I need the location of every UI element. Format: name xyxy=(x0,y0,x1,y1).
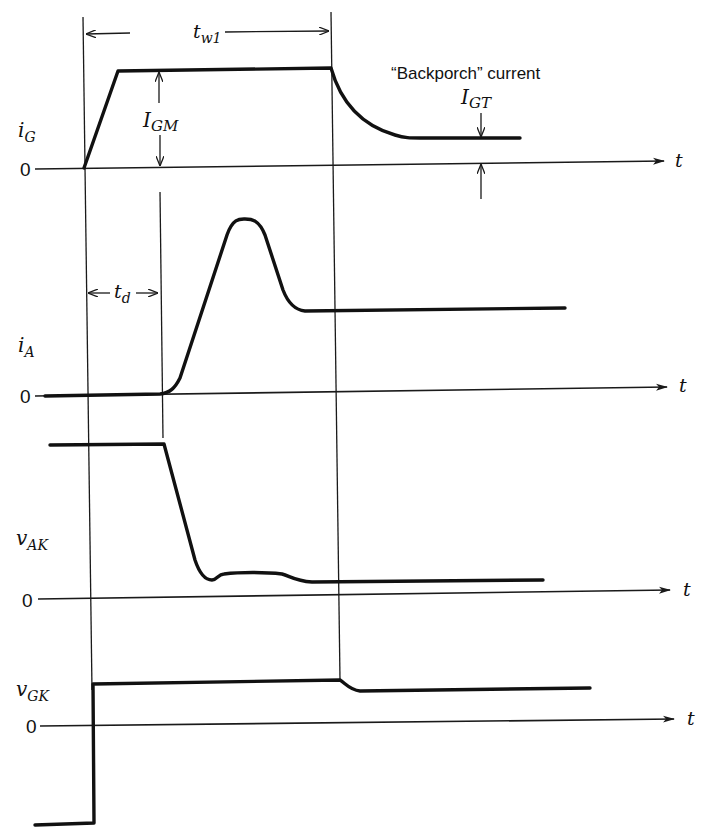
trace-vgk: 0 t vGK xyxy=(16,677,695,825)
trace-ig: 0 t iG tw1 IGM “Backporch” current IGT xyxy=(18,20,683,199)
vgk-zero-label: 0 xyxy=(26,716,37,737)
vak-waveform xyxy=(50,444,543,582)
ig-trace-label: iG xyxy=(18,118,36,145)
thyristor-timing-diagram: 0 t iG tw1 IGM “Backporch” current IGT 0… xyxy=(0,0,713,839)
td-label: td xyxy=(114,280,131,306)
backporch-current-label: “Backporch” current xyxy=(391,64,541,83)
trace-vak: 0 t vAK xyxy=(16,444,691,611)
tw1-dimension-left xyxy=(86,33,130,34)
ia-time-label: t xyxy=(679,374,687,396)
ig-time-axis xyxy=(35,161,664,169)
vak-time-axis xyxy=(38,590,670,599)
ia-zero-label: 0 xyxy=(20,386,31,407)
ia-trace-label: iA xyxy=(18,333,35,360)
vgk-time-axis xyxy=(40,719,674,726)
vak-zero-label: 0 xyxy=(22,590,33,611)
guide-line-pulse-end xyxy=(331,12,340,680)
tw1-label: tw1 xyxy=(193,20,222,46)
ia-waveform xyxy=(45,219,565,396)
vgk-trace-label: vGK xyxy=(16,677,50,704)
vak-time-label: t xyxy=(683,578,691,600)
tw1-dimension-right xyxy=(225,31,329,32)
ig-zero-label: 0 xyxy=(20,159,31,180)
trace-ia: 0 t iA td xyxy=(18,219,687,407)
igt-label: IGT xyxy=(460,85,492,112)
vak-trace-label: vAK xyxy=(16,526,49,553)
vgk-waveform xyxy=(35,680,590,825)
igm-label: IGM xyxy=(142,108,179,135)
guide-line-pulse-start xyxy=(83,17,92,690)
guide-line-delay-end xyxy=(160,192,163,438)
guide-lines xyxy=(83,12,340,690)
vgk-time-label: t xyxy=(687,707,695,729)
ig-time-label: t xyxy=(675,149,683,171)
